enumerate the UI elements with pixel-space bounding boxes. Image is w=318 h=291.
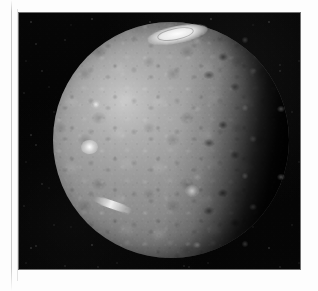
page-edge-line (11, 0, 12, 291)
image-page: Black and white spacecraft photograph of… (0, 0, 318, 291)
photograph-frame (19, 13, 300, 269)
page-inner-edge-line (17, 9, 18, 281)
film-grain-overlay (19, 13, 300, 269)
